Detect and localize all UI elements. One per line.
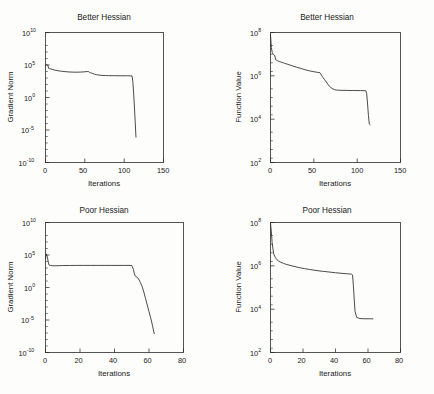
- y-tick-label: 10-5: [21, 315, 34, 325]
- x-axis-tick-labels: 0 50 100 150: [268, 166, 406, 175]
- y-tick-label: 105: [24, 250, 35, 260]
- x-axis-tick-labels: 0 50 100 150: [43, 166, 169, 175]
- y-tick-label: 100: [24, 92, 35, 102]
- y-tick-label: 105: [24, 60, 35, 70]
- y-tick-label: 102: [250, 157, 261, 167]
- y-tick-label: 100: [24, 282, 35, 292]
- plot-svg-top-left: Better Hessian: [0, 0, 217, 197]
- x-axis-label: Iterations: [319, 179, 351, 188]
- chart-panel-bottom-right: Poor Hessian 108: [217, 197, 434, 394]
- data-curve: [271, 35, 371, 125]
- x-axis-ticks: [46, 349, 184, 353]
- panel-title: Better Hessian: [300, 13, 354, 22]
- x-axis-tick-labels: 0 20 40 60 80: [43, 356, 186, 365]
- x-tick-label: 0: [43, 166, 47, 175]
- x-tick-label: 150: [157, 166, 169, 175]
- y-axis-tick-labels: 108 106 104 102: [250, 27, 261, 167]
- y-axis-label: Gradient Norm: [6, 261, 15, 312]
- y-axis-label: Function Value: [234, 71, 243, 122]
- x-axis-label: Iterations: [88, 179, 120, 188]
- y-tick-label: 102: [250, 347, 261, 357]
- plot-svg-bottom-right: Poor Hessian 108: [217, 197, 434, 394]
- axes-frame: [46, 223, 184, 353]
- x-axis-label: Iterations: [319, 369, 351, 378]
- data-curve: [271, 223, 373, 318]
- x-tick-label: 40: [109, 356, 117, 365]
- chart-panel-bottom-left: Poor Hessian: [0, 197, 217, 394]
- chart-panel-top-left: Better Hessian: [0, 0, 217, 197]
- x-tick-label: 150: [394, 166, 406, 175]
- y-tick-label: 104: [250, 304, 261, 314]
- panel-title: Better Hessian: [77, 13, 131, 22]
- axes-frame: [46, 33, 164, 163]
- x-tick-label: 20: [75, 356, 83, 365]
- x-tick-label: 0: [43, 356, 47, 365]
- axes-frame: [271, 33, 401, 163]
- y-tick-label: 106: [250, 70, 261, 80]
- x-axis-ticks: [271, 159, 401, 163]
- x-tick-label: 60: [144, 356, 152, 365]
- figure-canvas: Better Hessian: [0, 0, 434, 394]
- x-axis-tick-labels: 0 20 40 60 80: [268, 356, 403, 365]
- chart-panel-top-right: Better Hessian 10: [217, 0, 434, 197]
- data-curve: [46, 64, 136, 137]
- y-axis-ticks: [46, 33, 50, 163]
- y-axis-tick-labels: 108 106 104 102: [250, 217, 261, 357]
- y-axis-tick-labels: 1010 105 100 10-5 10-10: [19, 217, 37, 357]
- x-tick-label: 60: [363, 356, 371, 365]
- y-tick-label: 108: [250, 217, 261, 227]
- plot-svg-bottom-left: Poor Hessian: [0, 197, 217, 394]
- y-tick-label: 10-5: [21, 125, 34, 135]
- y-tick-label: 108: [250, 27, 261, 37]
- x-axis-ticks: [46, 159, 164, 163]
- data-curve: [46, 254, 155, 334]
- x-tick-label: 20: [298, 356, 306, 365]
- y-tick-label: 1010: [22, 27, 36, 37]
- y-tick-label: 1010: [22, 217, 36, 227]
- y-axis-label: Function Value: [234, 261, 243, 312]
- x-axis-ticks: [271, 349, 401, 353]
- x-axis-label: Iterations: [98, 369, 130, 378]
- x-tick-label: 50: [308, 166, 316, 175]
- y-tick-label: 104: [250, 114, 261, 124]
- x-tick-label: 100: [351, 166, 363, 175]
- x-tick-label: 0: [268, 166, 272, 175]
- x-tick-label: 80: [395, 356, 403, 365]
- x-tick-label: 50: [79, 166, 87, 175]
- y-tick-label: 10-10: [19, 157, 35, 167]
- panel-title: Poor Hessian: [302, 206, 352, 215]
- panel-title: Poor Hessian: [79, 206, 129, 215]
- y-axis-tick-labels: 1010 105 100 10-5 10-10: [19, 27, 37, 167]
- x-tick-label: 100: [118, 166, 130, 175]
- y-axis-ticks: [46, 223, 50, 353]
- x-tick-label: 80: [178, 356, 186, 365]
- y-tick-label: 10-10: [19, 347, 35, 357]
- x-tick-label: 40: [330, 356, 338, 365]
- y-tick-label: 106: [250, 260, 261, 270]
- x-tick-label: 0: [268, 356, 272, 365]
- plot-svg-top-right: Better Hessian 10: [217, 0, 434, 197]
- y-axis-label: Gradient Norm: [6, 71, 15, 122]
- axes-frame: [271, 223, 401, 353]
